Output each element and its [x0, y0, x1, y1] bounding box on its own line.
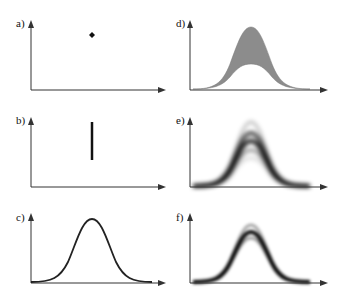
panel-label-e: e): [176, 115, 185, 126]
panel-e: [190, 121, 324, 187]
uncertainty-band: [193, 27, 310, 89]
panel-b: [31, 121, 162, 187]
panel-label-a: a): [16, 18, 25, 29]
panel-c: [31, 217, 162, 283]
point-marker: [89, 32, 95, 38]
density-band: [193, 122, 310, 186]
panel-f: [190, 217, 324, 283]
panel-label-f: f): [176, 212, 183, 223]
panel-d: [190, 24, 324, 90]
bell-curve: [31, 219, 152, 282]
density-band: [193, 225, 310, 282]
panel-label-d: d): [176, 18, 185, 29]
panel-a: [31, 24, 162, 90]
panel-label-c: c): [16, 212, 25, 223]
panel-label-b: b): [16, 115, 25, 126]
figure-canvas: [0, 0, 338, 298]
